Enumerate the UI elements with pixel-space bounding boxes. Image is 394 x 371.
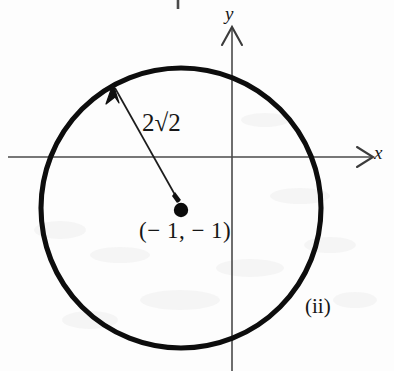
figure-index-label: (ii) <box>305 296 331 317</box>
paper-background <box>0 0 394 371</box>
geometry-figure: y x 2√2 (− 1, − 1) (ii) <box>0 0 394 371</box>
centre-coordinates-label: (− 1, − 1) <box>139 219 231 242</box>
figure-canvas <box>0 0 394 371</box>
radical-sign: √ <box>155 109 169 136</box>
radius-coefficient: 2 <box>142 109 155 136</box>
radius-length-label: 2√2 <box>142 110 181 135</box>
radicand: 2 <box>168 109 181 136</box>
x-axis-label: x <box>374 143 382 162</box>
centre-point-dot <box>174 203 188 217</box>
y-axis-label: y <box>225 4 233 23</box>
